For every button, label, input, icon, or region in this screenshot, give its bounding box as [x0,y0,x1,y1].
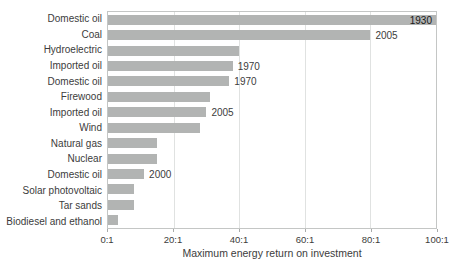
x-tick-label: 0:1 [100,234,113,245]
bar [108,61,233,71]
bar [108,15,436,25]
chart-row [108,89,436,104]
category-labels: Domestic oilCoalHydroelectricImported oi… [0,11,102,229]
chart-row [108,182,436,197]
chart-row: 2005 [108,105,436,120]
bar [108,200,134,210]
chart-row [108,212,436,227]
bar [108,184,134,194]
bar [108,76,229,86]
bar [108,46,239,56]
chart-row: 1970 [108,74,436,89]
year-annotation: 2005 [375,30,397,41]
chart-row [108,120,436,135]
category-label: Domestic oil [0,167,102,183]
tick-mark [239,229,240,232]
year-annotation: 2000 [149,168,171,179]
plot-area: 193020051970197020052000 [107,11,437,229]
chart-row [108,151,436,166]
category-label: Nuclear [0,151,102,167]
x-tick-label: 100:1 [425,234,449,245]
tick-mark [437,229,438,232]
bar [108,123,200,133]
category-label: Coal [0,27,102,43]
tick-mark [173,229,174,232]
chart-row [108,135,436,150]
category-label: Tar sands [0,198,102,214]
x-tick-label: 60:1 [296,234,315,245]
category-label: Wind [0,120,102,136]
bar [108,30,370,40]
chart-row [108,197,436,212]
eroi-bar-chart: Domestic oilCoalHydroelectricImported oi… [0,0,456,268]
bar [108,154,157,164]
category-label: Domestic oil [0,11,102,27]
bar [108,215,118,225]
bar [108,107,206,117]
category-label: Imported oil [0,58,102,74]
year-annotation: 2005 [211,107,233,118]
x-tick-label: 40:1 [230,234,249,245]
x-axis-title: Maximum energy return on investment [107,247,437,259]
category-label: Imported oil [0,104,102,120]
chart-row [108,43,436,58]
chart-row: 1970 [108,58,436,73]
tick-mark [305,229,306,232]
year-annotation: 1970 [238,60,260,71]
year-annotation: 1970 [234,76,256,87]
tick-mark [107,229,108,232]
x-tick-label: 80:1 [362,234,381,245]
x-axis-ticks: 0:120:140:160:180:1100:1 [107,229,437,245]
category-label: Firewood [0,89,102,105]
bar [108,138,157,148]
chart-row: 2000 [108,166,436,181]
chart-row: 1930 [108,12,436,27]
category-label: Natural gas [0,136,102,152]
chart-row: 2005 [108,27,436,42]
category-label: Solar photovoltaic [0,182,102,198]
bar [108,92,210,102]
category-label: Biodiesel and ethanol [0,214,102,230]
year-annotation: 1930 [410,14,432,25]
category-label: Hydroelectric [0,42,102,58]
category-label: Domestic oil [0,73,102,89]
tick-mark [371,229,372,232]
bar [108,169,144,179]
x-tick-label: 20:1 [164,234,183,245]
